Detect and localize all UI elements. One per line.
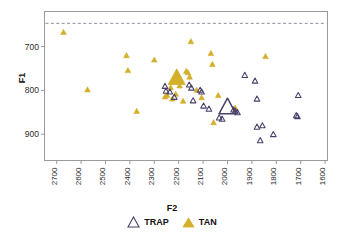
data-point-tan (168, 85, 174, 90)
legend-entry-tan[interactable]: TAN (182, 216, 217, 228)
mean-marker-tan (168, 69, 185, 85)
data-point-trap (252, 78, 258, 83)
y-axis-title: F1 (17, 73, 27, 84)
data-point-trap (260, 123, 266, 128)
data-point-trap (271, 131, 277, 136)
data-point-trap (199, 89, 205, 94)
x-tick-label: 1700 (294, 167, 303, 185)
data-point-tan (180, 98, 186, 103)
triangle-filled-icon (182, 216, 195, 228)
data-point-trap (162, 83, 168, 88)
scatter-plot: 2700260025002400230022002100200019001800… (0, 0, 344, 234)
plot-frame (45, 12, 328, 161)
data-point-tan (208, 50, 214, 55)
data-point-tan (210, 61, 216, 66)
x-tick-label: 1800 (269, 167, 278, 185)
data-point-tan (134, 108, 140, 113)
data-point-tan (215, 92, 221, 97)
data-point-tan (151, 57, 157, 62)
axis-ticks (41, 47, 325, 164)
x-axis-title: F2 (0, 203, 344, 213)
axis-tick-labels: 2700260025002400230022002100200019001800… (25, 42, 327, 186)
data-point-tan (61, 29, 67, 34)
data-point-tan (188, 39, 194, 44)
legend-label-trap: TRAP (144, 218, 169, 227)
legend-entry-trap[interactable]: TRAP (127, 216, 169, 228)
x-tick-label: 2200 (172, 167, 181, 185)
chart-legend: TRAP TAN (0, 216, 344, 228)
y-tick-label: 900 (25, 129, 39, 139)
data-point-trap (254, 124, 260, 129)
legend-label-tan: TAN (199, 218, 217, 227)
data-point-trap (190, 98, 196, 103)
data-point-trap (295, 92, 301, 97)
data-point-trap (206, 106, 212, 111)
chart-root: 2700260025002400230022002100200019001800… (0, 0, 344, 234)
data-point-trap (254, 96, 260, 101)
data-point-tan (124, 53, 130, 58)
x-tick-label: 2000 (220, 167, 229, 185)
data-point-tan (85, 87, 91, 92)
triangle-open-icon (127, 216, 140, 228)
x-tick-label: 2100 (196, 167, 205, 185)
data-point-tan (211, 120, 217, 125)
x-tick-label: 2600 (74, 167, 83, 185)
x-tick-label: 1600 (318, 167, 327, 185)
x-tick-label: 2300 (147, 167, 156, 185)
data-point-tan (199, 95, 205, 100)
data-point-tan (263, 53, 269, 58)
data-point-trap (257, 138, 263, 143)
y-tick-label: 800 (25, 85, 39, 95)
data-point-tan (125, 67, 131, 72)
x-tick-label: 2500 (98, 167, 107, 185)
x-tick-label: 2700 (50, 167, 59, 185)
data-point-trap (201, 103, 207, 108)
x-tick-label: 1900 (245, 167, 254, 185)
y-tick-label: 700 (25, 42, 39, 52)
x-tick-label: 2400 (123, 167, 132, 185)
data-point-trap (242, 72, 248, 77)
